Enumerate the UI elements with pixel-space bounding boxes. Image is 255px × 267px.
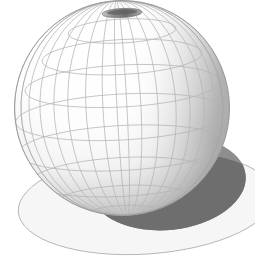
render-canvas: 3D Wireframe Sphere Render Shaded white … xyxy=(0,0,255,267)
sphere-scene-svg xyxy=(0,0,255,267)
